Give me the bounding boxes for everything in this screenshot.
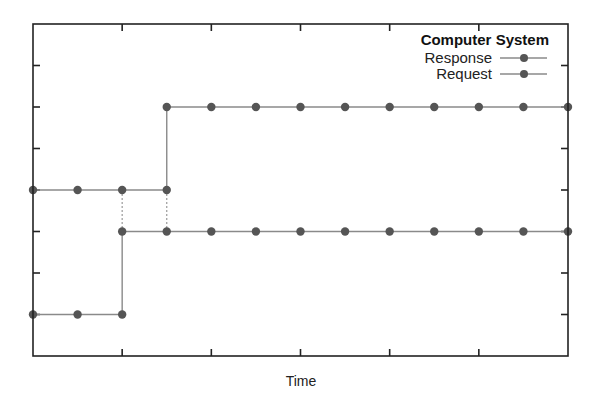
data-point-response: [341, 103, 349, 111]
data-point-response: [252, 103, 260, 111]
legend: Computer System Response Request: [421, 31, 549, 82]
series-request: [29, 227, 572, 318]
data-point-response: [385, 103, 393, 111]
legend-item-response: Response: [424, 49, 547, 66]
data-point-request: [385, 227, 393, 235]
series-line-response: [33, 107, 568, 190]
data-point-request: [163, 227, 171, 235]
data-point-request: [252, 227, 260, 235]
data-point-response: [296, 103, 304, 111]
data-point-response: [519, 103, 527, 111]
data-point-request: [207, 227, 215, 235]
legend-marker-response-icon: [520, 54, 528, 62]
step-connectors: [122, 190, 167, 232]
data-point-request: [118, 310, 126, 318]
data-point-request: [296, 227, 304, 235]
legend-label-response: Response: [424, 49, 492, 66]
data-point-response: [118, 186, 126, 194]
legend-label-request: Request: [436, 65, 493, 82]
data-point-response: [73, 186, 81, 194]
data-point-response: [163, 103, 171, 111]
data-point-request: [430, 227, 438, 235]
data-point-response: [430, 103, 438, 111]
legend-marker-request-icon: [520, 70, 528, 78]
data-point-response: [475, 103, 483, 111]
chart: Time Computer System Response Request: [0, 0, 596, 407]
legend-item-request: Request: [436, 65, 547, 82]
data-point-request: [341, 227, 349, 235]
x-axis-label: Time: [286, 373, 317, 389]
data-point-response: [163, 186, 171, 194]
data-point-response: [207, 103, 215, 111]
data-point-request: [73, 310, 81, 318]
data-point-request: [118, 227, 126, 235]
series-group: [29, 103, 572, 319]
series-response: [29, 103, 572, 194]
legend-title: Computer System: [421, 31, 549, 48]
data-point-request: [519, 227, 527, 235]
series-line-request: [33, 232, 568, 315]
data-point-request: [475, 227, 483, 235]
